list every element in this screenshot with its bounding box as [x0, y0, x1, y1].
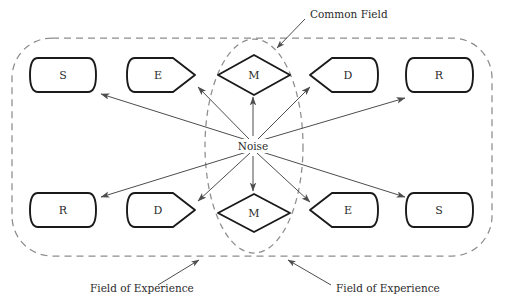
node-source-bottom-right-label: S	[435, 204, 443, 217]
noise-label: Noise	[238, 140, 268, 152]
node-receiver-bottom-left[interactable]: R	[30, 193, 96, 227]
noise-center: Noise	[232, 139, 274, 153]
node-encoder-top-left-label: E	[154, 69, 162, 82]
node-message-bottom[interactable]: M	[218, 194, 290, 232]
arrow-noise-to-receiver-top-right	[259, 98, 405, 141]
node-receiver-bottom-left-label: R	[59, 204, 68, 217]
node-decoder-bottom-left-label: D	[154, 204, 163, 217]
arrow-noise-to-decoder-top-right	[257, 87, 310, 140]
diagram-canvas: S E M D R R D	[0, 0, 505, 307]
node-source-top-left-label: S	[59, 69, 67, 82]
annotation-field-of-experience-left: Field of Experience	[90, 260, 199, 294]
node-message-top[interactable]: M	[218, 55, 290, 95]
node-message-top-label: M	[248, 69, 259, 82]
field-of-experience-right-label: Field of Experience	[336, 282, 440, 294]
node-encoder-bottom-right[interactable]: E	[310, 193, 378, 227]
node-encoder-bottom-right-label: E	[344, 204, 352, 217]
node-decoder-top-right-label: D	[344, 69, 353, 82]
field-of-experience-right-leader-line	[288, 260, 331, 285]
node-decoder-top-right[interactable]: D	[310, 58, 378, 92]
node-message-bottom-label: M	[248, 207, 259, 220]
arrow-noise-to-source-top-left	[101, 94, 253, 142]
node-encoder-top-left[interactable]: E	[127, 58, 195, 92]
node-source-top-left[interactable]: S	[30, 58, 96, 92]
common-field-leader-line	[277, 19, 305, 48]
node-receiver-top-right[interactable]: R	[406, 58, 473, 92]
annotation-field-of-experience-right: Field of Experience	[288, 260, 440, 294]
node-decoder-bottom-left[interactable]: D	[127, 193, 195, 227]
annotation-common-field: Common Field	[277, 8, 388, 48]
node-receiver-top-right-label: R	[435, 69, 444, 82]
arrow-noise-to-source-bottom-right	[259, 151, 405, 197]
field-of-experience-left-label: Field of Experience	[90, 282, 194, 294]
arrow-noise-to-decoder-bottom-left	[198, 153, 250, 201]
node-source-bottom-right[interactable]: S	[406, 193, 473, 227]
common-field-label: Common Field	[310, 8, 388, 20]
